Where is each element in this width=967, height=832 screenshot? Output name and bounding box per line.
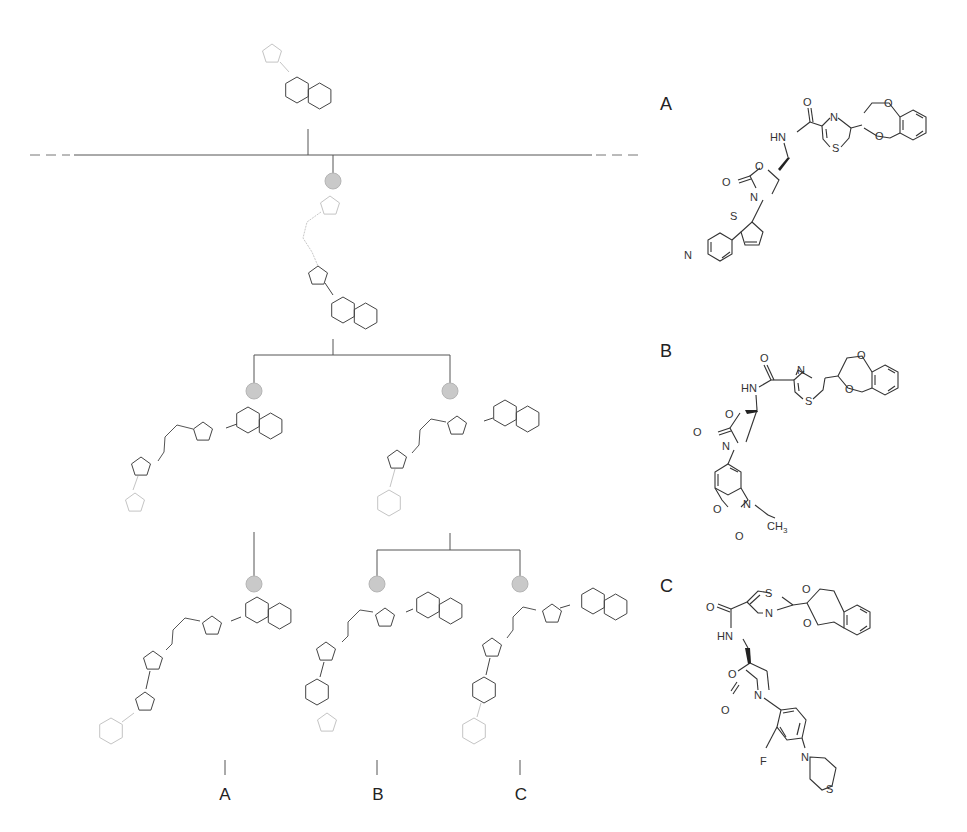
root-scaffold	[263, 44, 331, 109]
leaf-A-scaffold	[100, 597, 291, 744]
panel-label-B: B	[660, 341, 672, 361]
atom-N: N	[722, 440, 730, 452]
atom-O: O	[755, 160, 764, 172]
tree-node-level1[interactable]	[325, 173, 341, 189]
scaffold-tree-figure: A B C A O O N S O HN	[0, 0, 967, 832]
atom-O: O	[875, 130, 884, 142]
tree-node-level2-right[interactable]	[442, 383, 458, 399]
atom-O: O	[735, 530, 744, 542]
atom-N: N	[750, 191, 758, 203]
atom-HN: HN	[741, 382, 757, 394]
atom-O: O	[884, 97, 893, 109]
atom-N: N	[801, 751, 809, 763]
atom-N: N	[743, 498, 751, 510]
atom-O: O	[845, 383, 854, 395]
atom-O: O	[693, 426, 702, 438]
tree-node-leaf-B[interactable]	[369, 576, 385, 592]
atom-O: O	[802, 583, 811, 595]
atom-HN: HN	[770, 131, 786, 143]
atom-O: O	[803, 617, 812, 629]
tree-node-level2-left[interactable]	[246, 383, 262, 399]
atom-N: N	[830, 111, 838, 123]
atom-O: O	[803, 96, 812, 108]
atom-S: S	[730, 210, 737, 222]
atom-O: O	[706, 601, 715, 613]
atom-S: S	[832, 142, 839, 154]
atom-CH3: CH3	[767, 520, 788, 535]
leaf-label-A: A	[219, 785, 231, 804]
leaf-label-B: B	[372, 785, 383, 804]
atom-N: N	[754, 689, 762, 701]
atom-S: S	[765, 587, 772, 599]
level2-right-scaffold	[378, 400, 539, 516]
molecule-panel-B: B O O N	[660, 341, 898, 542]
atom-F: F	[760, 755, 767, 767]
leaf-C-scaffold	[463, 588, 627, 744]
tree-node-leaf-C[interactable]	[512, 576, 528, 592]
level2-left-scaffold	[126, 407, 282, 511]
atom-O: O	[857, 349, 866, 361]
atom-O: O	[713, 503, 722, 515]
atom-N: N	[765, 607, 773, 619]
leaf-B-scaffold	[306, 592, 462, 731]
molecule-panel-A: A O O N S O HN	[660, 94, 926, 261]
level1-scaffold	[303, 196, 377, 329]
atom-HN: HN	[717, 630, 733, 642]
atom-S: S	[826, 783, 833, 795]
panel-label-A: A	[660, 94, 672, 114]
atom-O: O	[722, 176, 731, 188]
atom-N: N	[684, 249, 692, 261]
atom-S: S	[805, 395, 812, 407]
atom-O: O	[725, 408, 734, 420]
atom-N: N	[797, 364, 805, 376]
atom-O: O	[721, 704, 730, 716]
panel-label-C: C	[660, 576, 673, 596]
leaf-label-C: C	[515, 785, 527, 804]
scaffold-tree: A B C	[30, 44, 640, 804]
stereo-wedge	[745, 648, 751, 664]
atom-O: O	[760, 352, 769, 364]
atom-O: O	[728, 668, 737, 680]
molecule-panel-C: C S	[660, 576, 870, 795]
stereo-wedge	[778, 157, 790, 171]
tree-node-leaf-A[interactable]	[246, 576, 262, 592]
